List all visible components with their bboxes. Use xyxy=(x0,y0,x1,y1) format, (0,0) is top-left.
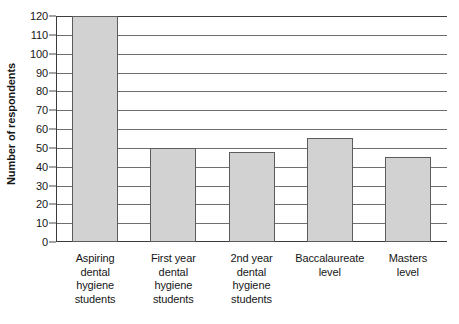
x-category-label: First yeardentalhygienestudents xyxy=(134,248,212,320)
plot-area xyxy=(56,16,447,242)
x-category-label-line: dental xyxy=(56,266,134,280)
bar xyxy=(385,157,431,242)
y-tick-label: 100 xyxy=(30,48,48,60)
x-category-label-line: level xyxy=(291,266,369,280)
y-tick-label: 110 xyxy=(31,29,48,41)
x-category-label-line: students xyxy=(212,293,290,307)
y-tick-mark xyxy=(49,34,56,35)
y-tick-mark xyxy=(49,185,56,186)
x-category-label-line: Masters xyxy=(369,252,447,266)
y-tick-mark xyxy=(49,204,56,205)
x-category-label-line: 2nd year xyxy=(212,252,290,266)
y-tick-mark xyxy=(49,53,56,54)
x-category-label-line: hygiene xyxy=(56,279,134,293)
y-tick-label: 120 xyxy=(30,10,48,22)
y-tick-label: 0 xyxy=(42,236,48,248)
y-tick-label: 40 xyxy=(36,161,48,173)
y-tick-mark xyxy=(49,147,56,148)
bar xyxy=(307,138,353,242)
y-tick-mark xyxy=(49,91,56,92)
bar-chart-figure: Number of respondents 120110100908070605… xyxy=(0,0,459,324)
x-category-label: Masterslevel xyxy=(369,248,447,320)
bar-slot xyxy=(212,16,290,242)
bar-slot xyxy=(291,16,369,242)
y-tick-label: 80 xyxy=(36,85,48,97)
y-tick-label: 70 xyxy=(36,104,48,116)
y-tick-mark xyxy=(49,16,56,17)
x-category-label-line: dental xyxy=(212,266,290,280)
x-category-label-line: First year xyxy=(134,252,212,266)
x-category-label-line: Aspiring xyxy=(56,252,134,266)
x-category-label: 2nd yeardentalhygienestudents xyxy=(212,248,290,320)
y-tick-mark xyxy=(49,223,56,224)
y-tick-mark xyxy=(49,129,56,130)
bar xyxy=(150,148,196,242)
x-category-label-line: students xyxy=(56,293,134,307)
y-tick-mark xyxy=(49,110,56,111)
y-tick-mark xyxy=(49,72,56,73)
bar-series xyxy=(56,16,447,242)
y-tick-mark xyxy=(49,166,56,167)
x-category-label: Aspiringdentalhygienestudents xyxy=(56,248,134,320)
y-axis-tick-labels: 1201101009080706050403020100 xyxy=(22,0,56,248)
bar-slot xyxy=(56,16,134,242)
y-tick-mark xyxy=(49,242,56,243)
bar xyxy=(229,152,275,242)
y-tick-label: 10 xyxy=(36,217,48,229)
y-axis-title-container: Number of respondents xyxy=(0,0,22,248)
x-category-label-line: Baccalaureate xyxy=(291,252,369,266)
y-tick-label: 60 xyxy=(36,123,48,135)
y-tick-label: 20 xyxy=(36,198,48,210)
x-axis-category-labels: AspiringdentalhygienestudentsFirst yeard… xyxy=(56,248,447,320)
y-tick-label: 50 xyxy=(36,142,48,154)
x-category-label-line: hygiene xyxy=(134,279,212,293)
bar-slot xyxy=(369,16,447,242)
y-tick-label: 30 xyxy=(36,180,48,192)
bar-slot xyxy=(134,16,212,242)
x-category-label: Baccalaureatelevel xyxy=(291,248,369,320)
x-category-label-line: hygiene xyxy=(212,279,290,293)
x-category-label-line: dental xyxy=(134,266,212,280)
x-category-label-line: students xyxy=(134,293,212,307)
y-axis-title: Number of respondents xyxy=(5,63,17,185)
y-tick-label: 90 xyxy=(36,67,48,79)
x-category-label-line: level xyxy=(369,266,447,280)
bar xyxy=(72,16,118,242)
